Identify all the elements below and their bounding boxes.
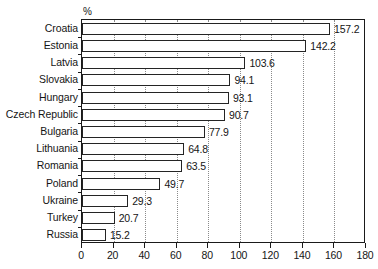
bar-value-label: 20.7 [119,212,139,224]
bar-value-label: 77.9 [209,126,229,138]
bar [82,195,128,207]
bar [82,126,205,138]
bar-chart: % CroatiaEstoniaLatviaSlovakiaHungaryCze… [0,0,378,269]
category-label: Czech Republic [0,108,78,120]
y-axis-tick [78,175,82,176]
bar [82,74,230,86]
bar-row: 20.7 [82,212,366,224]
category-label: Lithuania [0,142,78,154]
plot-area: 157.2142.2103.694.193.190.777.964.863.54… [81,19,365,243]
x-axis-tick [270,243,271,248]
bar-row: 77.9 [82,126,366,138]
category-label: Turkey [0,211,78,223]
bar-value-label: 29.3 [132,195,152,207]
x-axis-label: 120 [262,249,279,261]
bar-row: 63.5 [82,160,366,172]
bar-row: 49.7 [82,178,366,190]
x-axis-label: 60 [170,249,181,261]
y-axis-tick [78,37,82,38]
category-label: Poland [0,177,78,189]
y-axis-tick [78,89,82,90]
category-label: Latvia [0,56,78,68]
y-axis-tick [78,141,82,142]
y-axis-tick [78,106,82,107]
bar [82,92,229,104]
category-label: Romania [0,159,78,171]
bar-row: 90.7 [82,109,366,121]
y-axis-tick [78,227,82,228]
category-label: Ukraine [0,194,78,206]
bar [82,23,330,35]
bar [82,229,106,241]
y-axis-tick [78,210,82,211]
bar-value-label: 90.7 [229,109,249,121]
bar [82,109,225,121]
bar-row: 157.2 [82,23,366,35]
y-axis-tick [78,123,82,124]
y-axis-tick [78,72,82,73]
bar [82,143,184,155]
x-axis-tick [333,243,334,248]
x-axis-label: 0 [78,249,84,261]
bar-row: 94.1 [82,74,366,86]
x-axis-tick [176,243,177,248]
bar-row: 15.2 [82,229,366,241]
x-axis-label: 40 [138,249,149,261]
x-axis-label: 20 [107,249,118,261]
category-label: Slovakia [0,73,78,85]
bar-row: 64.8 [82,143,366,155]
bar [82,40,306,52]
category-label: Bulgaria [0,125,78,137]
x-axis-tick [144,243,145,248]
x-axis-label: 140 [293,249,310,261]
bar-value-label: 64.8 [188,143,208,155]
bar-value-label: 142.2 [310,40,335,52]
category-label: Hungary [0,91,78,103]
unit-label: % [83,6,92,17]
bar [82,160,182,172]
y-axis-tick [78,192,82,193]
x-axis-tick [239,243,240,248]
category-label: Estonia [0,39,78,51]
x-axis-tick [113,243,114,248]
category-label: Russia [0,228,78,240]
bar-value-label: 49.7 [164,178,184,190]
y-axis-tick [78,158,82,159]
category-label: Croatia [0,22,78,34]
x-axis-tick [302,243,303,248]
bar-value-label: 93.1 [233,92,253,104]
x-axis-tick [81,243,82,248]
bar-row: 29.3 [82,195,366,207]
bar [82,212,115,224]
bar [82,178,160,190]
x-axis-tick [365,243,366,248]
bar-row: 103.6 [82,57,366,69]
bar-value-label: 63.5 [186,160,206,172]
bar-value-label: 15.2 [110,229,130,241]
bar-value-label: 103.6 [249,57,274,69]
bar-value-label: 157.2 [334,23,359,35]
x-axis-label: 100 [230,249,247,261]
x-axis-label: 180 [357,249,374,261]
x-axis-tick [207,243,208,248]
bar-row: 93.1 [82,92,366,104]
x-axis-label: 160 [325,249,342,261]
y-axis-tick [78,54,82,55]
bar [82,57,245,69]
bar-row: 142.2 [82,40,366,52]
bar-value-label: 94.1 [234,74,254,86]
category-axis-labels: CroatiaEstoniaLatviaSlovakiaHungaryCzech… [0,19,78,243]
x-axis-label: 80 [202,249,213,261]
